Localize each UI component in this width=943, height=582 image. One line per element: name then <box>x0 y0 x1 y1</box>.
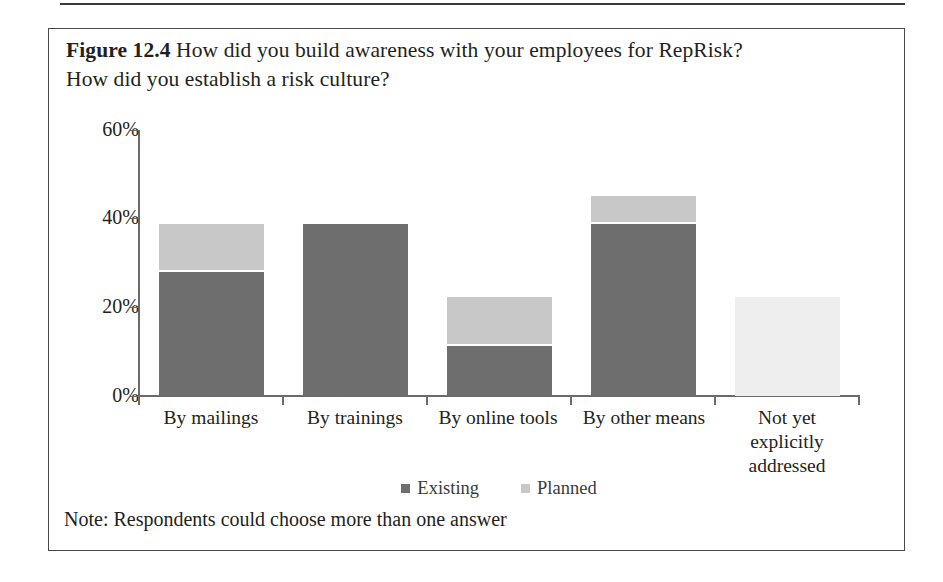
x-tick-mark-1 <box>282 396 284 405</box>
legend-swatch-icon-existing <box>401 484 410 493</box>
bar-by-other-means[interactable] <box>591 196 696 396</box>
y-axis-line <box>138 130 140 396</box>
bar-by-mailings[interactable] <box>159 224 264 396</box>
y-tick-mark-3 <box>130 130 139 132</box>
legend-item-planned[interactable]: Planned <box>521 478 597 499</box>
chart-legend: Existing Planned <box>138 478 860 499</box>
x-axis-label-line-3: addressed <box>749 455 826 476</box>
y-axis-label-2: 40% <box>69 206 139 229</box>
bar-by-trainings[interactable] <box>303 224 408 396</box>
x-axis-label-line-2: explicitly <box>750 431 824 452</box>
bar-not-yet-explicitly-addressed[interactable] <box>735 297 840 396</box>
bar-segment-planned[interactable] <box>159 224 264 270</box>
bar-segment-existing[interactable] <box>303 224 408 396</box>
bar-by-online-tools[interactable] <box>447 297 552 396</box>
bar-segment-planned[interactable] <box>447 297 552 344</box>
x-axis-label-by-mailings: By mailings <box>136 406 286 430</box>
legend-item-existing[interactable]: Existing <box>401 478 479 499</box>
x-axis-label-line-1: Not yet <box>758 407 816 428</box>
bar-segment-planned[interactable] <box>591 196 696 222</box>
y-axis-label-0: 0% <box>69 384 139 407</box>
y-axis-label-1: 20% <box>69 295 139 318</box>
y-axis-label-3: 60% <box>69 118 139 141</box>
x-tick-mark-3 <box>570 396 572 405</box>
y-tick-row-0: 0% <box>54 396 139 397</box>
y-tick-row-2: 40% <box>54 218 139 219</box>
bar-segment-existing[interactable] <box>159 272 264 396</box>
legend-label-planned: Planned <box>537 478 597 499</box>
bar-segment-planned[interactable] <box>735 297 840 396</box>
legend-label-existing: Existing <box>417 478 479 499</box>
figure-page: Figure 12.4 How did you build awareness … <box>0 0 943 582</box>
y-tick-row-1: 20% <box>54 307 139 308</box>
x-axis-label-by-online-tools: By online tools <box>420 406 576 430</box>
y-tick-row-3: 60% <box>54 130 139 131</box>
bar-segment-existing[interactable] <box>591 224 696 396</box>
x-tick-mark-5 <box>858 396 860 405</box>
x-axis-label-by-other-means: By other means <box>566 406 722 430</box>
chart-plot-area: 0% 20% 40% 60% <box>0 0 943 582</box>
x-axis-label-by-trainings: By trainings <box>280 406 430 430</box>
figure-note: Note: Respondents could choose more than… <box>64 508 507 531</box>
y-tick-mark-1 <box>130 307 139 309</box>
x-tick-mark-4 <box>714 396 716 405</box>
bar-segment-existing[interactable] <box>447 346 552 396</box>
legend-swatch-icon-planned <box>521 484 530 493</box>
y-tick-mark-2 <box>130 218 139 220</box>
x-tick-mark-2 <box>426 396 428 405</box>
x-axis-label-not-yet-explicitly-addressed: Not yet explicitly addressed <box>712 406 862 478</box>
x-tick-mark-0 <box>138 396 140 405</box>
